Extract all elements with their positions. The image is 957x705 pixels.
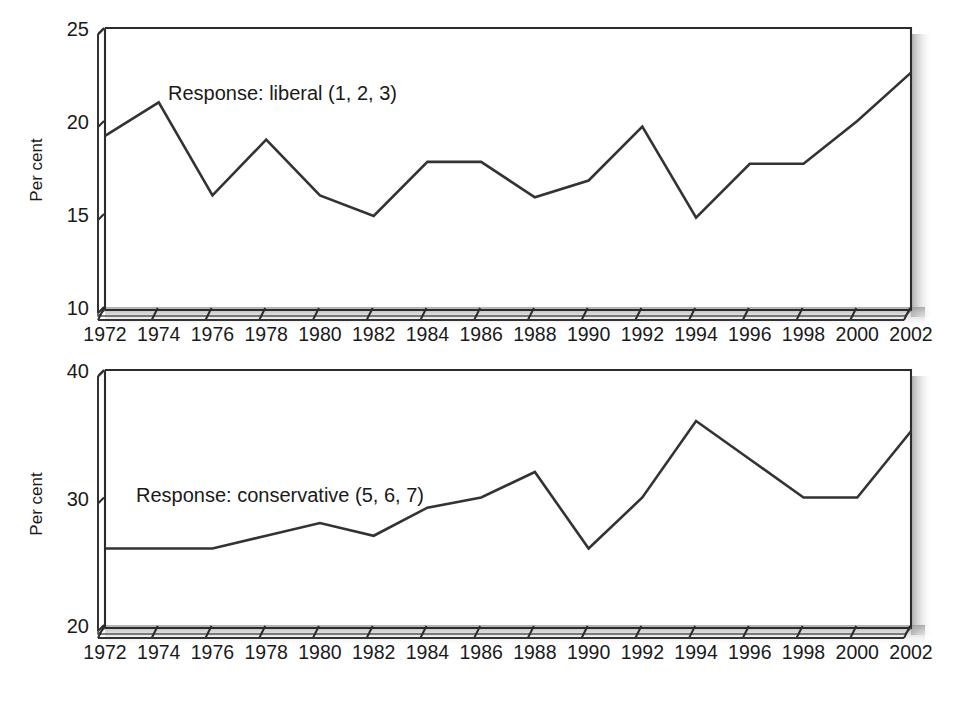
x-tick-label: 1984 bbox=[406, 323, 450, 345]
y-tick-label: 25 bbox=[67, 18, 89, 40]
y-tick-label: 30 bbox=[67, 488, 89, 510]
line-chart-conservative: 203040 197219741976197819801982198419861… bbox=[0, 352, 957, 705]
x-tick-label: 1986 bbox=[459, 641, 502, 663]
y-tick-label: 40 bbox=[67, 360, 89, 382]
chart-panel-liberal: 10152025 1972197419761978198019821984198… bbox=[0, 0, 957, 350]
x-tick-label: 1992 bbox=[621, 641, 664, 663]
line-chart-liberal: 10152025 1972197419761978198019821984198… bbox=[0, 0, 957, 350]
y-axis-title-top: Per cent bbox=[27, 138, 46, 202]
x-tick-label: 1994 bbox=[674, 323, 718, 345]
y-tick-label: 20 bbox=[67, 615, 89, 637]
x-tick-label: 1980 bbox=[298, 323, 342, 345]
x-tick-label: 2000 bbox=[836, 641, 880, 663]
x-tick-label: 1998 bbox=[782, 641, 825, 663]
figure-root: 10152025 1972197419761978198019821984198… bbox=[0, 0, 957, 705]
x-tick-label: 1996 bbox=[728, 641, 771, 663]
x-tick-label: 1972 bbox=[83, 323, 126, 345]
x-tick-label: 1990 bbox=[567, 641, 611, 663]
x-tick-label: 1982 bbox=[352, 323, 395, 345]
x-tick-label: 1978 bbox=[245, 323, 288, 345]
panel-shadow-right bbox=[911, 34, 933, 317]
x-tick-label: 2002 bbox=[889, 641, 932, 663]
y-axis-ticks: 203040 bbox=[67, 360, 104, 637]
x-tick-label: 1988 bbox=[513, 641, 556, 663]
series-annotation-conservative: Response: conservative (5, 6, 7) bbox=[136, 484, 424, 506]
x-tick-label: 1998 bbox=[782, 323, 825, 345]
x-tick-label: 1992 bbox=[621, 323, 664, 345]
x-tick-label: 1994 bbox=[674, 641, 718, 663]
x-tick-label: 1984 bbox=[406, 641, 450, 663]
x-tick-label: 1982 bbox=[352, 641, 395, 663]
x-tick-label: 2000 bbox=[836, 323, 880, 345]
plot-frame bbox=[105, 28, 911, 310]
x-tick-label: 1996 bbox=[728, 323, 771, 345]
x-tick-label: 2002 bbox=[889, 323, 932, 345]
x-tick-label: 1974 bbox=[137, 641, 181, 663]
x-tick-label: 1976 bbox=[191, 641, 234, 663]
y-tick-label: 15 bbox=[67, 204, 89, 226]
series-annotation-liberal: Response: liberal (1, 2, 3) bbox=[168, 82, 397, 104]
x-tick-label: 1980 bbox=[298, 641, 342, 663]
x-tick-label: 1978 bbox=[245, 641, 288, 663]
y-tick-label: 10 bbox=[67, 297, 89, 319]
y-tick-label: 20 bbox=[67, 111, 89, 133]
y-axis-ticks: 10152025 bbox=[67, 18, 104, 319]
x-tick-label: 1990 bbox=[567, 323, 611, 345]
chart-panel-conservative: 203040 197219741976197819801982198419861… bbox=[0, 352, 957, 705]
x-tick-label: 1988 bbox=[513, 323, 556, 345]
x-tick-label: 1976 bbox=[191, 323, 234, 345]
y-axis-title-bottom: Per cent bbox=[27, 472, 46, 536]
x-tick-label: 1986 bbox=[459, 323, 502, 345]
panel-shadow-right bbox=[911, 376, 933, 635]
x-tick-label: 1972 bbox=[83, 641, 126, 663]
x-tick-label: 1974 bbox=[137, 323, 181, 345]
